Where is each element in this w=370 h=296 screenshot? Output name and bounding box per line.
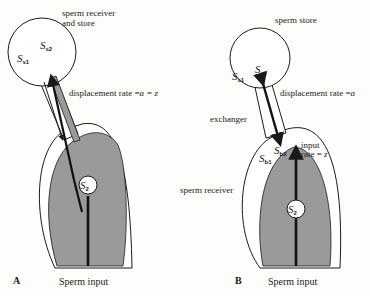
panel-a-top-label-1: sperm receiver	[62, 8, 115, 18]
panel-a-letter: A	[13, 275, 21, 286]
panel-b-input-rate-2: rate = z	[301, 149, 328, 159]
panel-a-input-label: Sperm input	[59, 276, 108, 287]
panel-b-top-label: sperm store	[275, 15, 317, 25]
panel-b-receiver-label: sperm receiver	[180, 185, 233, 195]
panel-b-letter: B	[235, 275, 242, 286]
panel-b-input-label: Sperm input	[268, 276, 317, 287]
panel-a-rate-label: displacement rate =a = z	[69, 88, 159, 98]
panel-b-exchanger-label: exchanger	[210, 114, 247, 124]
panel-b: S2 Ss1 Ss2 Sb1 Sb2 sperm store displacem…	[180, 15, 356, 287]
panel-a-top-label-2: and store	[62, 18, 95, 28]
panel-a: S2 Ss1 Ss2 sperm receiver and store disp…	[8, 8, 159, 287]
sperm-storage-diagram: S2 Ss1 Ss2 sperm receiver and store disp…	[0, 0, 370, 296]
panel-b-rate-label: displacement rate =a	[280, 88, 356, 98]
